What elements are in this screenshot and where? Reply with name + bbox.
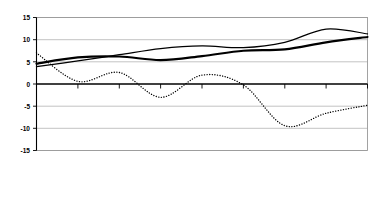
- y-tick-label: -15: [21, 147, 31, 154]
- y-tick-label: 0: [26, 81, 30, 88]
- y-axis-labels: 15 10 5 0 -5 -10 -15: [21, 14, 31, 154]
- y-tick-label: -10: [21, 125, 31, 132]
- y-tick-label: 5: [26, 59, 30, 66]
- y-tick-label: 10: [23, 36, 31, 43]
- y-tick-label: 15: [23, 14, 31, 21]
- series-line-burglary-and-theft: [37, 53, 368, 127]
- plot-area-container: 15 10 5 0 -5 -10 -15: [0, 0, 388, 160]
- series-line-gnp-per-capita: [37, 29, 368, 67]
- y-tick-label: -5: [24, 103, 30, 110]
- chart-canvas: 15 10 5 0 -5 -10 -15: [0, 0, 388, 160]
- line-chart-figure: 15 10 5 0 -5 -10 -15: [0, 0, 388, 224]
